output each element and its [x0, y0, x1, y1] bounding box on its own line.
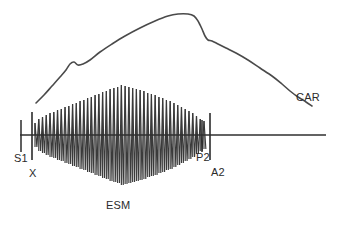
- carotid-pulse-curve: [36, 14, 312, 106]
- label-p2: P2: [196, 152, 210, 163]
- phonocardiogram-figure: S1 X P2 A2 ESM CAR: [0, 0, 337, 225]
- label-a2: A2: [211, 167, 225, 178]
- figure-canvas: [0, 0, 337, 225]
- label-esm: ESM: [106, 200, 130, 211]
- label-x: X: [29, 168, 37, 179]
- label-s1: S1: [14, 153, 28, 164]
- carotid-pulse-curve-group: [36, 14, 312, 106]
- label-car: CAR: [296, 92, 320, 103]
